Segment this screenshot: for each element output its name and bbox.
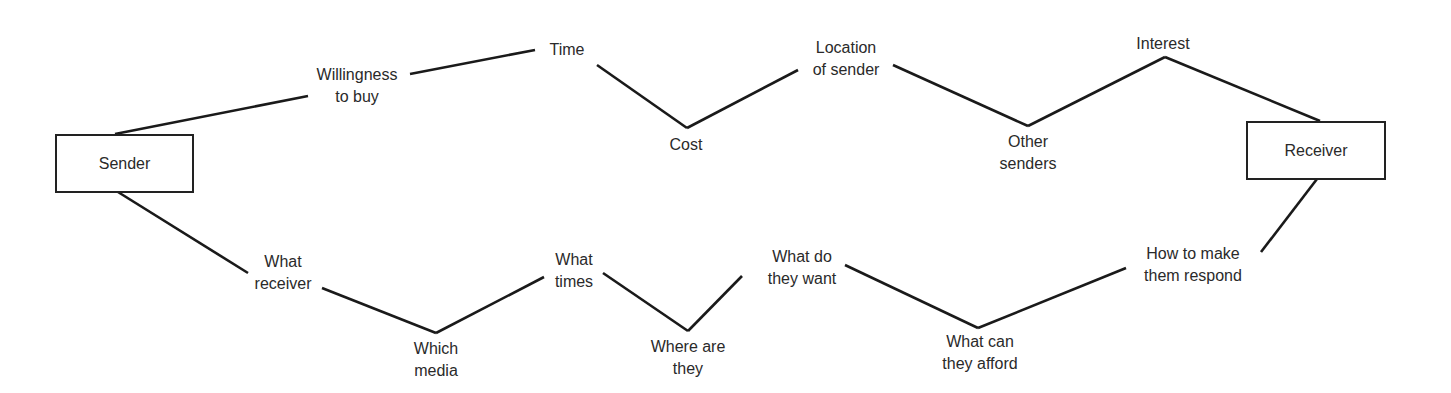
edge-time-to-cost <box>597 65 687 128</box>
edge-what-do-they-want-to-what-can-they-afford <box>845 265 978 328</box>
label-how-to-make-them-respond: How to make them respond <box>1144 243 1242 287</box>
label-cost: Cost <box>670 134 703 156</box>
label-where-are-they: Where are they <box>651 336 726 380</box>
edge-cost-to-location <box>687 70 798 128</box>
edge-how-to-make-them-respond-to-receiver <box>1261 179 1317 252</box>
receiver-node: Receiver <box>1246 121 1386 180</box>
connector-lines <box>0 0 1451 393</box>
label-location-of-sender: Location of sender <box>813 37 880 81</box>
sender-receiver-diagram: Sender Receiver Willingness to buy Time … <box>0 0 1451 393</box>
edge-what-receiver-to-which-media <box>322 288 436 333</box>
label-willingness-to-buy: Willingness to buy <box>317 64 398 108</box>
label-what-can-they-afford: What can they afford <box>942 331 1017 375</box>
edge-other-senders-to-interest <box>1028 57 1165 126</box>
edge-sender-to-willingness <box>115 96 308 134</box>
label-which-media: Which media <box>414 338 458 382</box>
label-interest: Interest <box>1136 33 1189 55</box>
label-what-times: What times <box>555 249 593 293</box>
sender-node: Sender <box>55 134 194 193</box>
edge-what-can-they-afford-to-how-to-make-them-respond <box>978 268 1126 328</box>
edge-willingness-to-time <box>410 50 535 74</box>
edge-location-to-other-senders <box>893 65 1028 126</box>
edge-interest-to-receiver <box>1165 57 1320 121</box>
label-what-do-they-want: What do they want <box>768 246 836 290</box>
receiver-label: Receiver <box>1284 142 1347 160</box>
label-time: Time <box>550 39 585 61</box>
sender-label: Sender <box>99 155 151 173</box>
label-what-receiver: What receiver <box>255 251 312 295</box>
edge-sender-to-what-receiver <box>118 192 248 273</box>
edge-where-are-they-to-what-do-they-want <box>688 276 742 331</box>
edge-which-media-to-what-times <box>436 277 544 333</box>
label-other-senders: Other senders <box>1000 131 1057 175</box>
edge-what-times-to-where-are-they <box>603 273 688 331</box>
